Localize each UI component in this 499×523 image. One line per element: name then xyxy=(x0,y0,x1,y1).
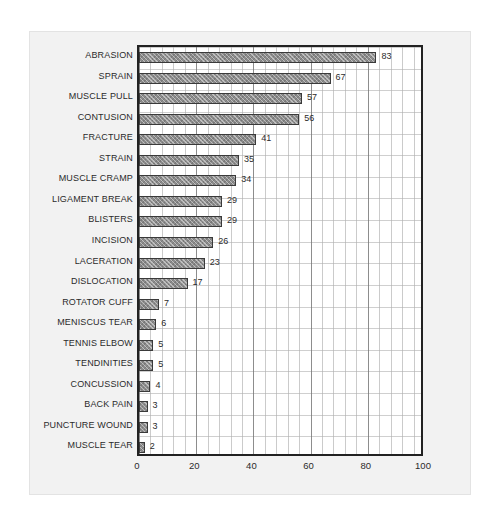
x-axis-ticks: 020406080100 xyxy=(137,460,423,482)
bar[interactable] xyxy=(139,422,148,433)
bar[interactable] xyxy=(139,93,302,104)
x-tick-label: 80 xyxy=(361,460,372,471)
bar-row: 5 xyxy=(139,335,421,357)
category-axis-labels: ABRASIONSPRAINMUSCLE PULLCONTUSIONFRACTU… xyxy=(30,45,133,456)
chart-frame: ABRASIONSPRAINMUSCLE PULLCONTUSIONFRACTU… xyxy=(29,31,471,495)
bar-value-label: 17 xyxy=(193,276,203,289)
category-label: BLISTERS xyxy=(28,209,133,231)
bar[interactable] xyxy=(139,134,256,145)
bar-value-label: 6 xyxy=(161,317,166,330)
bar-row: 29 xyxy=(139,191,421,213)
bar-row: 56 xyxy=(139,109,421,131)
bar-row: 7 xyxy=(139,294,421,316)
x-tick-label: 20 xyxy=(189,460,200,471)
category-label: PUNCTURE WOUND xyxy=(28,415,133,437)
category-label: LIGAMENT BREAK xyxy=(28,189,133,211)
x-tick-label: 60 xyxy=(303,460,314,471)
bar-value-label: 5 xyxy=(158,338,163,351)
bar-value-label: 5 xyxy=(158,358,163,371)
bar-value-label: 3 xyxy=(153,420,158,433)
category-label: TENDINITIES xyxy=(28,353,133,375)
bar[interactable] xyxy=(139,360,153,371)
category-label: LACERATION xyxy=(28,251,133,273)
bar-row: 23 xyxy=(139,253,421,275)
bar[interactable] xyxy=(139,381,150,392)
bar[interactable] xyxy=(139,216,222,227)
category-label: CONTUSION xyxy=(28,107,133,129)
category-label: TENNIS ELBOW xyxy=(28,333,133,355)
bar-value-label: 34 xyxy=(241,173,251,186)
bar[interactable] xyxy=(139,299,159,310)
bar[interactable] xyxy=(139,155,239,166)
bar-row: 29 xyxy=(139,211,421,233)
bar[interactable] xyxy=(139,73,331,84)
category-label: MUSCLE CRAMP xyxy=(28,168,133,190)
bar-row: 35 xyxy=(139,150,421,172)
bar[interactable] xyxy=(139,196,222,207)
bar-row: 57 xyxy=(139,88,421,110)
x-tick-label: 100 xyxy=(415,460,431,471)
bar-row: 17 xyxy=(139,273,421,295)
bar[interactable] xyxy=(139,237,213,248)
bar-value-label: 67 xyxy=(336,71,346,84)
category-label: BACK PAIN xyxy=(28,394,133,416)
category-label: MUSCLE TEAR xyxy=(28,435,133,457)
bar[interactable] xyxy=(139,319,156,330)
category-label: ABRASION xyxy=(28,45,133,67)
category-label: FRACTURE xyxy=(28,127,133,149)
bar-row: 26 xyxy=(139,232,421,254)
category-label: CONCUSSION xyxy=(28,374,133,396)
bar-value-label: 29 xyxy=(227,194,237,207)
bar-row: 6 xyxy=(139,314,421,336)
bar-row: 4 xyxy=(139,376,421,398)
bar-value-label: 2 xyxy=(150,440,155,453)
bar-value-label: 83 xyxy=(381,50,391,63)
bar-value-label: 23 xyxy=(210,256,220,269)
category-label: STRAIN xyxy=(28,148,133,170)
bar[interactable] xyxy=(139,340,153,351)
category-label: ROTATOR CUFF xyxy=(28,292,133,314)
bar[interactable] xyxy=(139,401,148,412)
plot-area: 83675756413534292926231776554332 xyxy=(137,45,423,456)
bar-row: 3 xyxy=(139,396,421,418)
bar-row: 41 xyxy=(139,129,421,151)
bar[interactable] xyxy=(139,114,299,125)
category-label: INCISION xyxy=(28,230,133,252)
bar-value-label: 35 xyxy=(244,153,254,166)
bar-row: 67 xyxy=(139,68,421,90)
bar-row: 83 xyxy=(139,47,421,69)
bar-row: 3 xyxy=(139,417,421,439)
bar-value-label: 56 xyxy=(304,112,314,125)
bar-value-label: 3 xyxy=(153,399,158,412)
bar[interactable] xyxy=(139,278,188,289)
bar[interactable] xyxy=(139,175,236,186)
bar-row: 34 xyxy=(139,170,421,192)
bar[interactable] xyxy=(139,52,376,63)
bar-value-label: 4 xyxy=(155,379,160,392)
bar-value-label: 26 xyxy=(218,235,228,248)
bar-row: 2 xyxy=(139,437,421,459)
bar-value-label: 57 xyxy=(307,91,317,104)
bar-value-label: 7 xyxy=(164,297,169,310)
bar-row: 5 xyxy=(139,355,421,377)
category-label: DISLOCATION xyxy=(28,271,133,293)
x-tick-label: 40 xyxy=(246,460,257,471)
bar-value-label: 29 xyxy=(227,214,237,227)
bar-series: 83675756413534292926231776554332 xyxy=(139,47,421,454)
bar[interactable] xyxy=(139,442,145,453)
category-label: SPRAIN xyxy=(28,66,133,88)
x-tick-label: 0 xyxy=(134,460,139,471)
bar[interactable] xyxy=(139,258,205,269)
category-label: MUSCLE PULL xyxy=(28,86,133,108)
bar-value-label: 41 xyxy=(261,132,271,145)
category-label: MENISCUS TEAR xyxy=(28,312,133,334)
